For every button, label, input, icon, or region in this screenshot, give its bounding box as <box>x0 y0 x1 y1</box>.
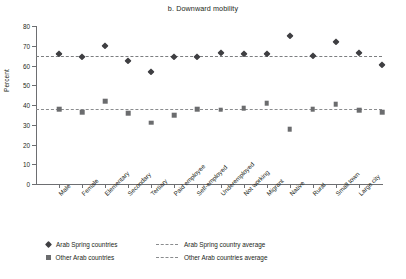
plot-area <box>36 26 382 184</box>
y-axis-tick-label: 40 <box>0 102 30 109</box>
data-point <box>378 61 385 68</box>
data-point <box>287 127 292 132</box>
data-point <box>380 110 385 115</box>
y-axis-tick-label: 10 <box>0 161 30 168</box>
data-point <box>218 107 223 112</box>
data-point <box>334 102 339 107</box>
legend-item-other-average: Other Arab countries average <box>156 254 356 261</box>
legend-item-spring-average: Arab Spring country average <box>156 241 356 248</box>
data-point <box>309 53 316 60</box>
square-marker-icon <box>46 255 51 260</box>
data-point <box>171 53 178 60</box>
data-point <box>125 57 132 64</box>
y-axis-tick-label: 30 <box>0 121 30 128</box>
legend-row-spring: Arab Spring countries Arab Spring countr… <box>44 238 374 251</box>
data-point <box>241 106 246 111</box>
chart-legend: Arab Spring countries Arab Spring countr… <box>44 238 374 264</box>
dashed-line-icon <box>156 257 178 258</box>
data-point <box>148 69 155 76</box>
legend-label-other-countries: Other Arab countries <box>56 254 115 261</box>
legend-item-other-marker: Other Arab countries <box>44 254 156 261</box>
data-point <box>311 107 316 112</box>
y-axis-tick-label: 60 <box>0 62 30 69</box>
chart-title: b. Downward mobility <box>0 4 406 13</box>
downward-mobility-chart: b. Downward mobility Percent 01020304050… <box>0 0 406 279</box>
x-axis-tick <box>290 184 291 188</box>
data-point <box>126 111 131 116</box>
data-point <box>102 42 109 49</box>
data-point <box>264 101 269 106</box>
legend-label-spring-average: Arab Spring country average <box>184 241 265 248</box>
legend-label-other-average: Other Arab countries average <box>184 254 267 261</box>
y-axis-tick-label: 20 <box>0 141 30 148</box>
legend-row-other: Other Arab countries Other Arab countrie… <box>44 251 374 264</box>
legend-label-spring-countries: Arab Spring countries <box>56 241 117 248</box>
average-reference-line <box>36 109 382 110</box>
y-axis-tick-label: 0 <box>0 181 30 188</box>
data-point <box>172 113 177 118</box>
data-point <box>286 33 293 40</box>
data-point <box>80 110 85 115</box>
data-point <box>57 107 62 112</box>
average-reference-line <box>36 56 382 57</box>
data-point <box>357 108 362 113</box>
legend-item-spring-marker: Arab Spring countries <box>44 241 156 248</box>
x-axis-tick <box>244 184 245 188</box>
y-axis-tick-label: 70 <box>0 42 30 49</box>
data-point <box>103 99 108 104</box>
data-point <box>149 120 154 125</box>
dashed-line-icon <box>156 244 178 245</box>
y-axis-tick-label: 80 <box>0 23 30 30</box>
diamond-marker-icon <box>45 241 52 248</box>
x-axis-tick <box>221 184 222 188</box>
data-point <box>332 38 339 45</box>
data-point <box>78 53 85 60</box>
x-axis-tick <box>267 184 268 188</box>
y-axis-tick-label: 50 <box>0 82 30 89</box>
y-axis-tick <box>32 184 36 185</box>
data-point <box>195 107 200 112</box>
data-point <box>194 53 201 60</box>
